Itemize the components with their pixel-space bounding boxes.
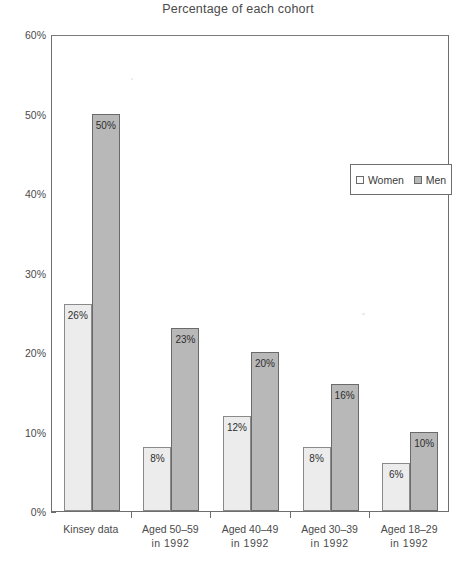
bar-chart: of men and women reporting same-sex part… — [0, 0, 476, 566]
x-label-line1: Aged 30–39 — [301, 523, 358, 535]
x-axis-group-label-5: Aged 18–29in 1992 — [369, 522, 449, 550]
bar-value-label: 23% — [172, 334, 198, 345]
bar-value-label: 50% — [93, 120, 119, 131]
scan-speckle — [362, 313, 365, 315]
legend-swatch-women-icon — [356, 176, 364, 184]
y-tick-label: 40% — [2, 188, 46, 200]
x-label-line2: in 1992 — [369, 536, 449, 550]
x-label-line2: in 1992 — [210, 536, 290, 550]
legend-label-women: Women — [368, 174, 404, 186]
x-tick-mark — [369, 512, 370, 518]
x-label-line2: in 1992 — [131, 536, 211, 550]
y-tick-mark — [51, 512, 56, 513]
scan-speckle — [131, 78, 133, 80]
y-tick-label: 20% — [2, 347, 46, 359]
y-tick-label: 0% — [2, 506, 46, 518]
bar-men-5: 10% — [410, 432, 438, 512]
y-tick-label: 60% — [2, 29, 46, 41]
bar-women-3: 12% — [223, 416, 251, 511]
bar-value-label: 20% — [252, 358, 278, 369]
bar-value-label: 16% — [332, 390, 358, 401]
y-tick-label: 50% — [2, 109, 46, 121]
x-tick-mark — [210, 512, 211, 518]
bar-men-4: 16% — [331, 384, 359, 511]
bar-men-2: 23% — [171, 328, 199, 511]
bar-value-label: 12% — [224, 422, 250, 433]
y-axis: 0%10%20%30%40%50%60% — [0, 0, 46, 566]
x-axis-group-label-3: Aged 40–49in 1992 — [210, 522, 290, 550]
x-axis-group-label-2: Aged 50–59in 1992 — [131, 522, 211, 550]
x-axis-group-label-4: Aged 30–39in 1992 — [290, 522, 370, 550]
plot-area: 26%50%8%23%12%20%8%16%6%10% Women Men — [51, 35, 449, 512]
x-label-line1: Aged 18–29 — [381, 523, 438, 535]
bar-women-4: 8% — [303, 447, 331, 511]
legend-item-men: Men — [414, 174, 446, 186]
bar-men-1: 50% — [92, 114, 120, 512]
y-tick-label: 10% — [2, 427, 46, 439]
legend-label-men: Men — [426, 174, 446, 186]
bar-women-5: 6% — [382, 463, 410, 511]
bar-value-label: 10% — [411, 438, 437, 449]
bar-value-label: 6% — [383, 469, 409, 480]
bar-men-3: 20% — [251, 352, 279, 511]
chart-title: Percentage of each cohort — [0, 2, 476, 16]
bar-value-label: 8% — [304, 453, 330, 464]
legend-swatch-men-icon — [414, 176, 422, 184]
x-label-line1: Aged 50–59 — [142, 523, 199, 535]
x-tick-mark — [290, 512, 291, 518]
bar-value-label: 26% — [65, 310, 91, 321]
legend: Women Men — [350, 164, 452, 195]
y-tick-label: 30% — [2, 268, 46, 280]
legend-item-women: Women — [356, 174, 404, 186]
x-tick-mark — [131, 512, 132, 518]
x-label-line1: Aged 40–49 — [222, 523, 279, 535]
bar-women-1: 26% — [64, 304, 92, 511]
bar-women-2: 8% — [143, 447, 171, 511]
x-label-line2: in 1992 — [290, 536, 370, 550]
x-axis-group-label-1: Kinsey data — [51, 522, 131, 536]
bar-value-label: 8% — [144, 453, 170, 464]
x-label-line1: Kinsey data — [63, 523, 118, 535]
